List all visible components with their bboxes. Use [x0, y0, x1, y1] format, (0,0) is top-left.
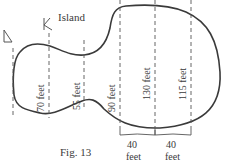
- spacing-brackets: [120, 130, 191, 135]
- spacing-2-unit: feet: [165, 151, 180, 162]
- spacing-1-value: 40: [127, 139, 137, 150]
- measurement-115: 115 feet: [177, 68, 188, 100]
- measurement-90: 90 feet: [106, 85, 117, 113]
- measurement-130: 130 feet: [141, 68, 152, 101]
- spacing-1-unit: feet: [126, 151, 141, 162]
- island-title: Island: [58, 11, 85, 23]
- hand-annotations: [4, 18, 52, 42]
- measurement-70: 70 feet: [35, 85, 46, 113]
- spacing-2-value: 40: [166, 139, 176, 150]
- island-diagram: [0, 0, 227, 164]
- figure-caption: Fig. 13: [60, 146, 91, 158]
- measurement-55: 55 feet: [71, 83, 82, 111]
